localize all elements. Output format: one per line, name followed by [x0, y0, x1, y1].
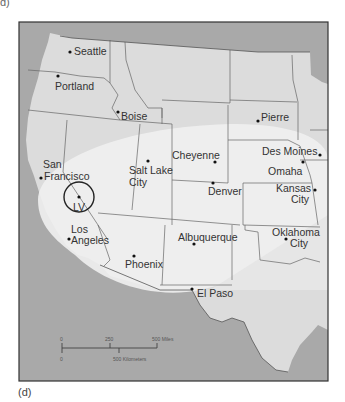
city-label-san-francisco-2: Francisco: [44, 170, 90, 182]
city-label-oklahoma-city-2: City: [290, 237, 309, 249]
city-label-seattle: Seattle: [74, 45, 107, 57]
scale-miles-0: 0: [60, 336, 63, 342]
city-dot-las-vegas: [77, 195, 80, 198]
city-label-kansas-city-2: City: [291, 193, 310, 205]
scale-km-0: 0: [60, 356, 63, 362]
city-label-des-moines: Des Moines: [262, 145, 317, 157]
city-dot-el-paso: [190, 287, 193, 290]
city-dot-boise: [116, 110, 119, 113]
city-label-salt-lake-city-1: Salt Lake: [129, 164, 173, 176]
city-dot-kansas-city: [313, 188, 316, 191]
figure-label-bottom: (d): [18, 386, 31, 398]
city-label-san-francisco-1: San: [43, 158, 62, 170]
city-label-salt-lake-city-2: City: [129, 176, 148, 188]
city-label-portland: Portland: [55, 80, 94, 92]
city-label-boise: Boise: [121, 110, 147, 122]
city-dot-seattle: [68, 50, 71, 53]
scale-km-500: 500 Kilometers: [113, 356, 147, 362]
city-label-denver: Denver: [208, 185, 242, 197]
city-dot-omaha: [301, 160, 304, 163]
city-label-omaha: Omaha: [268, 165, 303, 177]
city-label-pierre: Pierre: [261, 111, 289, 123]
city-label-albuquerque: Albuquerque: [178, 231, 238, 243]
scale-miles-250: 250: [105, 336, 114, 342]
city-label-las-vegas: LV: [73, 201, 85, 213]
city-label-el-paso: El Paso: [197, 287, 233, 299]
scale-miles-500: 500 Miles: [152, 336, 174, 342]
city-label-cheyenne: Cheyenne: [172, 149, 220, 161]
city-dot-salt-lake-city: [146, 159, 149, 162]
city-dot-san-francisco: [39, 176, 42, 179]
city-label-phoenix: Phoenix: [125, 258, 164, 270]
city-dot-portland: [56, 74, 59, 77]
city-dot-des-moines: [318, 153, 321, 156]
map: Seattle Portland Boise Pierre San Franci…: [0, 0, 345, 402]
city-dot-pierre: [256, 119, 259, 122]
city-label-los-angeles-2: Angeles: [71, 234, 109, 246]
